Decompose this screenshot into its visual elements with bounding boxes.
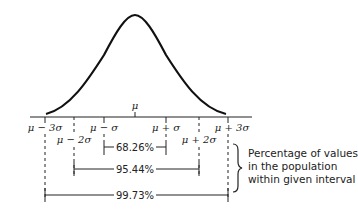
interval-3sigma-label: 99.73% [116, 190, 154, 201]
interval-2sigma-label: 95.44% [116, 164, 154, 175]
interval-1sigma-label: 68.26% [116, 142, 154, 153]
annotation-line-3: within given interval [248, 173, 355, 185]
annotation-line-2: in the population [248, 160, 337, 172]
annotation-line-1: Percentage of values [248, 147, 358, 159]
tick-label-minus-3sigma: μ − 3σ [28, 122, 64, 133]
tick-label-minus-1sigma: μ − σ [90, 122, 119, 133]
tick-label-minus-2sigma: μ − 2σ [57, 134, 93, 145]
mean-label: μ [132, 100, 139, 111]
tick-label-plus-1sigma: μ + σ [152, 122, 181, 133]
normal-distribution-diagram: μ μ − 3σ μ − 2σ μ − σ μ + σ μ + 2σ μ + 3… [0, 0, 358, 212]
dashed-guides [45, 117, 228, 200]
tick-label-plus-3sigma: μ + 3σ [215, 122, 251, 133]
curly-brace [233, 144, 242, 192]
tick-label-plus-2sigma: μ + 2σ [182, 134, 218, 145]
